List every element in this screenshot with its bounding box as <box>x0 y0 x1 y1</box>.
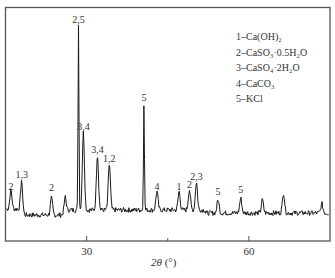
legend-item-4: 4–CaCO₃ <box>236 76 307 92</box>
legend-item-1: 1–Ca(OH)₂ <box>236 29 307 45</box>
peak-label-1: 1,3 <box>15 169 28 180</box>
x-axis-label: 2θ (°) <box>151 256 176 268</box>
peak-label-7: 1,2 <box>103 153 116 164</box>
legend-item-5: 5–KCl <box>236 91 307 107</box>
peak-label-12: 2,3 <box>190 171 203 182</box>
legend: 1–Ca(OH)₂ 2–CaSO₃·0.5H₂O 3–CaSO₄·2H₂O 4–… <box>236 29 307 107</box>
peak-label-5: 3,4 <box>77 121 90 132</box>
peak-label-9: 4 <box>154 181 159 192</box>
x-tick-label-30: 30 <box>81 245 93 257</box>
x-tick-label-60: 60 <box>243 245 255 257</box>
x-axis-label-symbol: 2θ <box>151 256 162 268</box>
peak-labels: 21,322,53,43,41,254122,355 <box>8 14 243 197</box>
peak-label-8: 5 <box>141 92 146 103</box>
peak-label-2: 2 <box>49 182 54 193</box>
x-axis-ticks: 3060 <box>81 236 255 257</box>
legend-item-3: 3–CaSO₄·2H₂O <box>236 60 307 76</box>
peak-label-10: 1 <box>177 181 182 192</box>
peak-label-13: 5 <box>216 186 221 197</box>
peak-label-0: 2 <box>8 181 13 192</box>
peak-label-6: 3,4 <box>91 144 104 155</box>
x-axis-label-unit: (°) <box>162 256 176 268</box>
legend-item-2: 2–CaSO₃·0.5H₂O <box>236 45 307 61</box>
peak-label-14: 5 <box>238 184 243 195</box>
peak-label-4: 2,5 <box>72 14 85 25</box>
